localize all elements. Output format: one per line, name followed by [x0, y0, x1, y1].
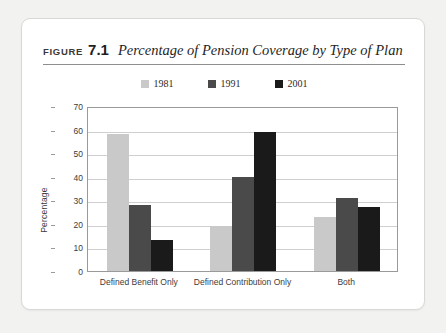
y-axis-tick-labels: 010203040506070 [55, 107, 83, 272]
y-tick-10: 10 [59, 243, 83, 253]
x-tick-label-1: Defined Contribution Only [191, 277, 295, 287]
legend-swatch-1981 [141, 80, 149, 88]
y-tick-50: 50 [59, 149, 83, 159]
bar-1981-1 [210, 226, 232, 271]
y-tick-60: 60 [59, 126, 83, 136]
x-axis-tick-labels: Defined Benefit OnlyDefined Contribution… [87, 277, 398, 291]
legend-label-1991: 1991 [221, 79, 241, 89]
y-tick-mark-60 [51, 131, 55, 132]
caption-divider [43, 64, 405, 65]
bar-1991-0 [129, 205, 151, 271]
legend-label-2001: 2001 [288, 79, 308, 89]
y-tick-40: 40 [59, 173, 83, 183]
y-tick-mark-40 [51, 178, 55, 179]
figure-card: FIGURE7.1Percentage of Pension Coverage … [21, 18, 425, 310]
figure-caption: FIGURE7.1Percentage of Pension Coverage … [43, 41, 405, 63]
y-tick-mark-30 [51, 201, 55, 202]
legend-item-1981: 1981 [141, 79, 174, 89]
y-tick-mark-20 [51, 225, 55, 226]
bar-1981-2 [314, 217, 336, 271]
plot-frame [87, 107, 398, 272]
legend-item-1991: 1991 [208, 79, 241, 89]
figure-number: 7.1 [88, 41, 109, 58]
y-tick-mark-10 [51, 248, 55, 249]
bar-2001-1 [254, 132, 276, 271]
y-axis-title: Percentage [39, 160, 49, 260]
bar-1991-2 [336, 198, 358, 271]
y-tick-70: 70 [59, 102, 83, 112]
chart-legend: 198119912001 [43, 77, 405, 91]
x-tick-label-0: Defined Benefit Only [87, 277, 191, 287]
bar-group-1 [192, 108, 296, 271]
bar-2001-2 [358, 207, 380, 271]
bar-group-0 [88, 108, 192, 271]
y-tick-mark-0 [51, 272, 55, 273]
y-tick-mark-70 [51, 107, 55, 108]
legend-swatch-2001 [275, 80, 283, 88]
figure-label: FIGURE [43, 46, 83, 57]
y-tick-0: 0 [59, 267, 83, 277]
legend-item-2001: 2001 [275, 79, 308, 89]
legend-label-1981: 1981 [154, 79, 174, 89]
y-tick-30: 30 [59, 196, 83, 206]
bar-1991-1 [232, 177, 254, 271]
x-tick-label-2: Both [294, 277, 398, 287]
bar-group-2 [295, 108, 399, 271]
bar-2001-0 [151, 240, 173, 271]
legend-swatch-1991 [208, 80, 216, 88]
figure-title: Percentage of Pension Coverage by Type o… [118, 42, 403, 58]
chart-area: Percentage 010203040506070 Defined Benef… [22, 99, 426, 311]
y-tick-mark-50 [51, 154, 55, 155]
bars-layer [88, 108, 397, 271]
y-tick-20: 20 [59, 220, 83, 230]
bar-1981-0 [107, 134, 129, 271]
